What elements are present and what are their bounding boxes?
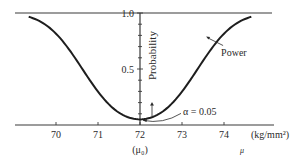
x-tick-label: 73 — [177, 129, 187, 140]
y-axis-label: Probability — [146, 31, 158, 80]
alpha-label: α = 0.05 — [183, 106, 216, 117]
axes — [15, 13, 274, 125]
x-axis-label: μ — [239, 146, 244, 155]
x-tick-label: 71 — [93, 129, 103, 140]
x-tick-label: 74 — [219, 129, 229, 140]
annotations: Powerα = 0.05 — [143, 37, 247, 122]
probability-arrow-head — [150, 103, 154, 106]
x-unit-label: (kg/mm²) — [251, 129, 289, 141]
x-tick-label: 72 — [135, 129, 145, 140]
x-tick-label: 70 — [51, 129, 61, 140]
y-tick-label: 0.5 — [122, 64, 135, 75]
mu0-label: (μ₀) — [132, 144, 148, 156]
y-tick-label: 1.0 — [122, 8, 135, 19]
labels: 7071727374(kg/mm²)(μ₀)μ0.51.0Probability — [51, 8, 289, 157]
power-curve-chart: 7071727374(kg/mm²)(μ₀)μ0.51.0Probability… — [0, 0, 300, 162]
power-label: Power — [221, 47, 247, 58]
